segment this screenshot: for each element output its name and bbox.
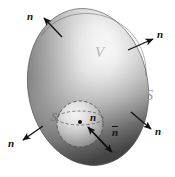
normal-label-inner-outward-wrap: n <box>112 126 118 138</box>
volume-label-V: V <box>95 45 104 60</box>
figure-container: V S S' n n n n n n <box>0 0 175 177</box>
outer-surface-label-S: S <box>146 89 153 103</box>
inner-sphere-center-dot <box>78 120 82 124</box>
normal-label-bottom-left: n <box>8 138 14 149</box>
outer-ellipsoid <box>15 0 161 175</box>
normal-label-inner-sphere: n <box>90 112 96 123</box>
inner-sphere <box>57 101 103 147</box>
inner-surface-label-S-prime: S' <box>51 111 60 123</box>
normal-label-top-right: n <box>157 29 163 40</box>
normal-arrow-bottom-left <box>23 126 43 140</box>
normal-label-inner-outward: n <box>112 126 118 138</box>
normal-label-bottom-right: n <box>155 126 161 137</box>
normal-label-top-left: n <box>27 11 33 22</box>
